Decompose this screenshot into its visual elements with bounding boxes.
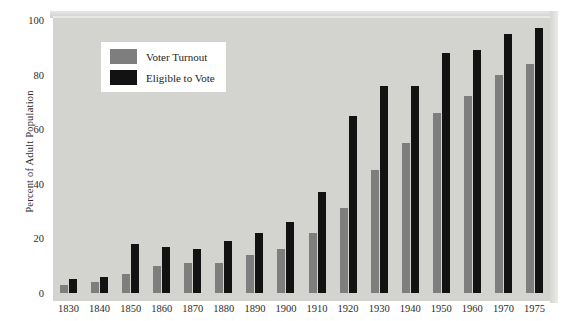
x-tick-1850: 1850 xyxy=(120,303,141,314)
bar-1940-voter-turnout xyxy=(402,143,410,293)
bar-1910-voter-turnout xyxy=(309,233,317,293)
bar-1960-voter-turnout xyxy=(464,96,472,293)
bar-1975-eligible-to-vote xyxy=(535,28,543,293)
y-tick-0: 0 xyxy=(39,288,44,299)
bar-1930-eligible-to-vote xyxy=(380,86,388,293)
bar-1930-voter-turnout xyxy=(371,170,379,293)
bar-group-1830 xyxy=(60,16,77,301)
bar-1850-eligible-to-vote xyxy=(131,244,139,293)
bar-1950-voter-turnout xyxy=(433,113,441,293)
bar-1970-eligible-to-vote xyxy=(504,34,512,293)
x-tick-1930: 1930 xyxy=(369,303,390,314)
bar-1840-voter-turnout xyxy=(91,282,99,293)
plot-frame-right-bevel xyxy=(550,11,558,303)
bar-1890-eligible-to-vote xyxy=(255,233,263,293)
bar-1850-voter-turnout xyxy=(122,274,130,293)
bar-1975-voter-turnout xyxy=(526,64,534,293)
bar-1870-eligible-to-vote xyxy=(193,249,201,293)
bar-group-1890 xyxy=(246,16,263,301)
bar-1910-eligible-to-vote xyxy=(318,192,326,293)
x-axis-tick-labels: 1830184018501860187018801890190019101920… xyxy=(50,303,558,321)
x-tick-1900: 1900 xyxy=(275,303,296,314)
x-tick-1870: 1870 xyxy=(182,303,203,314)
bar-1890-voter-turnout xyxy=(246,255,254,293)
y-tick-40: 40 xyxy=(34,178,45,189)
y-tick-20: 20 xyxy=(34,233,45,244)
bar-1920-eligible-to-vote xyxy=(349,116,357,293)
bar-group-1940 xyxy=(402,16,419,301)
bar-1840-eligible-to-vote xyxy=(100,277,108,293)
bar-group-1900 xyxy=(277,16,294,301)
x-tick-1910: 1910 xyxy=(307,303,328,314)
y-tick-100: 100 xyxy=(28,15,44,26)
legend-item-voter-turnout: Voter Turnout xyxy=(110,49,215,64)
bar-group-1910 xyxy=(309,16,326,301)
bar-group-1970 xyxy=(495,16,512,301)
bar-1940-eligible-to-vote xyxy=(411,86,419,293)
legend-label: Voter Turnout xyxy=(146,51,207,63)
x-tick-1970: 1970 xyxy=(493,303,514,314)
bar-1860-voter-turnout xyxy=(153,266,161,293)
y-axis-tick-labels: 020406080100 xyxy=(0,0,48,321)
x-tick-1975: 1975 xyxy=(524,303,545,314)
bar-1830-voter-turnout xyxy=(60,285,68,293)
x-tick-1860: 1860 xyxy=(151,303,172,314)
legend-item-eligible-to-vote: Eligible to Vote xyxy=(110,70,215,85)
bar-chart: Percent of Adult Population 020406080100… xyxy=(0,0,562,321)
bar-1880-eligible-to-vote xyxy=(224,241,232,293)
bar-group-1920 xyxy=(340,16,357,301)
x-tick-1920: 1920 xyxy=(338,303,359,314)
bar-1920-voter-turnout xyxy=(340,208,348,293)
legend-label: Eligible to Vote xyxy=(146,72,215,84)
x-tick-1960: 1960 xyxy=(462,303,483,314)
legend-swatch-icon-eligible xyxy=(110,70,137,85)
x-tick-1950: 1950 xyxy=(431,303,452,314)
bar-1870-voter-turnout xyxy=(184,263,192,293)
bar-1900-eligible-to-vote xyxy=(286,222,294,293)
bar-group-1975 xyxy=(526,16,543,301)
bar-group-1930 xyxy=(371,16,388,301)
x-tick-1890: 1890 xyxy=(244,303,265,314)
bar-1960-eligible-to-vote xyxy=(473,50,481,293)
y-tick-60: 60 xyxy=(34,124,45,135)
bar-1880-voter-turnout xyxy=(215,263,223,293)
chart-legend: Voter TurnoutEligible to Vote xyxy=(101,42,226,92)
x-tick-1830: 1830 xyxy=(58,303,79,314)
legend-swatch-icon-turnout xyxy=(110,49,137,64)
bar-group-1950 xyxy=(433,16,450,301)
bar-1830-eligible-to-vote xyxy=(69,279,77,293)
y-tick-80: 80 xyxy=(34,69,45,80)
bar-group-1960 xyxy=(464,16,481,301)
bar-1970-voter-turnout xyxy=(495,75,503,293)
bar-1860-eligible-to-vote xyxy=(162,247,170,293)
x-tick-1840: 1840 xyxy=(89,303,110,314)
x-tick-1880: 1880 xyxy=(213,303,234,314)
x-tick-1940: 1940 xyxy=(400,303,421,314)
bar-1900-voter-turnout xyxy=(277,249,285,293)
bar-1950-eligible-to-vote xyxy=(442,53,450,293)
